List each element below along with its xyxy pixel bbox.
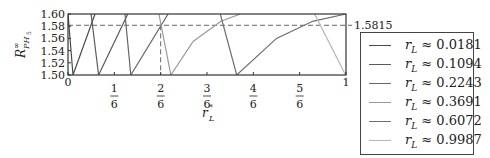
y-axis-label-sub2: 5 (25, 31, 32, 35)
legend-swatch-line-icon (369, 64, 391, 65)
x-tick-denominator: 6 (250, 98, 257, 111)
y-tick-label: 1.56 (41, 32, 66, 45)
series-line (125, 14, 168, 75)
x-tick-label: 0 (65, 76, 72, 89)
y-tick-label: 1.60 (41, 8, 66, 21)
y-axis-label-sup: ∞ (12, 42, 21, 49)
x-tick-numerator: 3 (204, 82, 211, 95)
x-tick-numerator: 1 (111, 82, 118, 95)
legend-label: rL ≈ 0.0181 (405, 37, 482, 55)
reference-value-label: 1.5815 (354, 19, 393, 32)
y-tick-label: 1.50 (41, 69, 66, 82)
legend-item: rL ≈ 0.9987 (361, 131, 473, 149)
plot-lines (68, 14, 352, 75)
legend-swatch-line-icon (369, 121, 391, 122)
legend-label: rL ≈ 0.9987 (405, 132, 482, 150)
y-tick-label: 1.52 (41, 57, 66, 70)
x-tick-numerator: 5 (296, 82, 303, 95)
legend-box: rL ≈ 0.0181 rL ≈ 0.1094 rL ≈ 0.2243 rL ≈… (360, 32, 474, 155)
legend-swatch-line-icon (369, 45, 391, 46)
x-axis-label-sup: * (209, 103, 213, 112)
legend-swatch-line-icon (369, 140, 391, 141)
x-tick-denominator: 6 (296, 98, 303, 111)
series-line (220, 14, 346, 75)
plot-frame (68, 14, 346, 75)
x-tick-label: 1 (343, 76, 350, 89)
y-tick-label: 1.58 (41, 20, 66, 33)
y-axis-label: R∞PH5 (12, 31, 32, 59)
series-line (91, 14, 128, 75)
legend-label: rL ≈ 0.2243 (405, 75, 482, 93)
x-axis-label-sub: L (208, 114, 214, 123)
y-axis-label-sub: PH (22, 36, 31, 50)
legend-swatch-line-icon (369, 83, 391, 84)
x-tick-numerator: 2 (157, 82, 164, 95)
series-line (315, 14, 346, 75)
y-tick-label: 1.54 (41, 45, 66, 58)
x-tick-denominator: 6 (157, 98, 164, 111)
legend-swatch-line-icon (369, 102, 391, 103)
series-line (68, 14, 95, 75)
legend-item: rL ≈ 0.2243 (361, 74, 473, 92)
legend-label: rL ≈ 0.6072 (405, 113, 482, 131)
legend-item: rL ≈ 0.6072 (361, 112, 473, 130)
legend-item: rL ≈ 0.1094 (361, 55, 473, 73)
y-axis-label-main: R (14, 49, 28, 59)
legend-item: rL ≈ 0.3691 (361, 93, 473, 111)
legend-label: rL ≈ 0.1094 (405, 56, 482, 74)
x-tick-numerator: 4 (250, 82, 257, 95)
x-tick-denominator: 6 (111, 98, 118, 111)
legend-item: rL ≈ 0.0181 (361, 36, 473, 54)
legend-label: rL ≈ 0.3691 (405, 94, 482, 112)
